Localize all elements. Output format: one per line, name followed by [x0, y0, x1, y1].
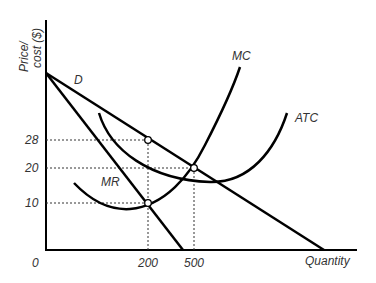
y-axis-title-line2: cost ($) — [31, 28, 44, 68]
label-mc: MC — [232, 49, 251, 63]
point-200-10 — [145, 200, 152, 207]
label-mr: MR — [101, 175, 120, 189]
x-tick-500: 500 — [184, 256, 204, 270]
point-500-20 — [191, 165, 198, 172]
x-tick-0: 0 — [32, 256, 39, 270]
point-200-28 — [145, 137, 152, 144]
label-d: D — [74, 73, 83, 87]
x-tick-200: 200 — [138, 256, 158, 270]
y-tick-28: 28 — [25, 133, 38, 147]
y-tick-10: 10 — [25, 196, 38, 210]
demand-curve — [46, 73, 324, 250]
mc-curve — [74, 67, 240, 209]
y-tick-20: 20 — [25, 161, 38, 175]
x-axis-title: Quantity — [305, 254, 350, 268]
monopoly-cost-revenue-chart — [0, 0, 376, 283]
mr-curve — [46, 73, 183, 250]
label-atc: ATC — [295, 111, 318, 125]
